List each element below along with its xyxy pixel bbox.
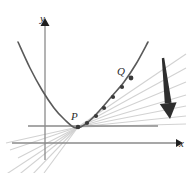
curve-point-q <box>129 76 134 81</box>
parabola-curve <box>18 42 148 128</box>
point-label-p: P <box>71 111 78 122</box>
curve-point-d2 <box>94 114 98 118</box>
secant-line <box>30 127 78 173</box>
downward-direction-arrow-icon <box>160 58 177 119</box>
point-label-q: Q <box>117 66 125 77</box>
curve-point-d1 <box>85 121 89 125</box>
curve-points-group <box>76 76 134 130</box>
figure-container: y x P Q <box>0 0 193 173</box>
secant-lines-group <box>2 54 186 173</box>
secant-line <box>6 127 78 143</box>
curve-point-d4 <box>111 95 115 99</box>
curve-point-p <box>76 125 81 130</box>
curve-point-d3 <box>102 106 106 110</box>
y-axis-label: y <box>40 13 45 24</box>
figure-canvas <box>0 0 193 173</box>
curve-point-d5 <box>120 85 124 89</box>
secant-line <box>10 127 78 150</box>
x-axis-label: x <box>179 138 184 149</box>
